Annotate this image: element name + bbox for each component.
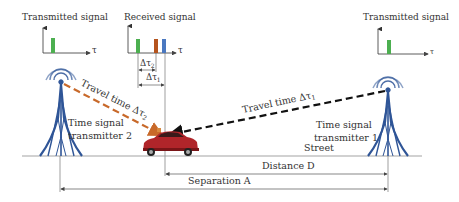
orange-pulse [154,39,158,53]
delta-tau-2-label: Δτ2 [140,58,155,69]
green-pulse [136,39,140,53]
transmitter-2-label-line1: Time signal [68,117,124,128]
green-pulse [51,38,55,53]
green-pulse [387,40,391,54]
received-signal-title: Received signal [124,12,196,22]
right-transmitted-signal-title: Transmitted signal [363,12,449,22]
right-transmitted-signal-plot: Transmitted signal τ [363,12,449,56]
blue-pulse [162,39,166,53]
positioning-diagram: Transmitted signal τ Received signal τ Δ… [0,0,459,202]
delta-tau-1-label: Δτ1 [146,72,161,83]
street-label: Street [304,142,334,153]
distance-d-label: Distance D [262,160,315,171]
transmitter-2-tower [40,69,82,156]
separation-a-label: Separation A [188,175,251,186]
tau-axis-label: τ [430,48,434,56]
left-transmitted-signal-title: Transmitted signal [22,12,108,22]
transmitter-1-label-line2: transmitter 1 [314,132,378,143]
travel-time-1-label: Travel time Δτ1 [241,89,316,117]
tau-axis-label: τ [178,45,183,55]
transmitter-1-label-line1: Time signal [316,119,372,130]
travel-time-2-label: Travel time Δτ2 [78,77,150,122]
left-transmitted-signal-plot: Transmitted signal τ [22,12,108,55]
transmitter-2-label-line2: transmitter 2 [68,130,132,141]
transmitter-1-tower [368,77,408,156]
car-icon [143,128,199,156]
tau-axis-label: τ [92,45,97,55]
